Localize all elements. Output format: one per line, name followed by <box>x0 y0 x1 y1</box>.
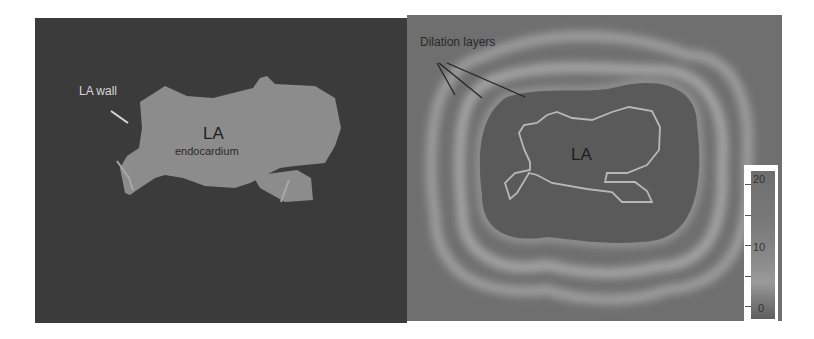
dilation-map-panel: Dilation layers LA 20 10 0 <box>407 15 782 321</box>
la-segmentation-shape <box>35 18 407 323</box>
dilation-layers-label: Dilation layers <box>420 35 495 49</box>
colorbar: 20 10 0 <box>744 165 778 321</box>
colorbar-tick-label: 20 <box>753 173 765 185</box>
colorbar-tick-label: 0 <box>758 302 764 314</box>
colorbar-tick <box>745 306 751 307</box>
dilation-rings <box>407 15 782 321</box>
la-label: LA <box>571 145 592 165</box>
colorbar-tick <box>745 276 751 277</box>
colorbar-tick-label: 10 <box>753 241 765 253</box>
la-label: LA <box>203 124 224 144</box>
colorbar-tick <box>745 215 751 216</box>
la-wall-label: LA wall <box>79 84 117 98</box>
colorbar-tick <box>745 245 751 246</box>
segmentation-panel: LA wall LA endocardium <box>35 18 407 323</box>
colorbar-tick <box>745 184 751 185</box>
endocardium-label: endocardium <box>175 145 239 157</box>
